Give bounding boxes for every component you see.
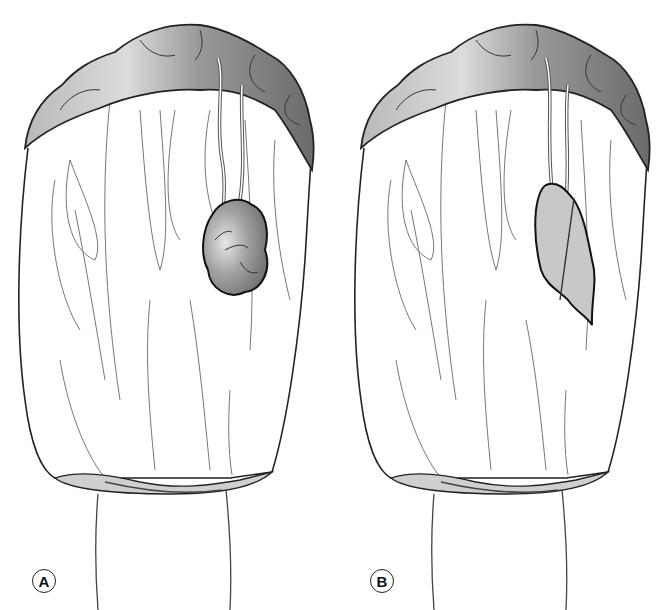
panel-label-a: A	[32, 569, 56, 593]
panel-label-b: B	[370, 569, 394, 593]
stem-right	[562, 490, 567, 610]
stem-left	[96, 494, 98, 610]
label-text: A	[39, 573, 50, 590]
stem-left	[432, 494, 434, 610]
panel-b: B	[336, 0, 671, 610]
stem-right	[226, 490, 231, 610]
panel-a: A	[0, 0, 335, 610]
label-text: B	[377, 573, 388, 590]
illustration-b	[336, 0, 671, 610]
illustration-a	[0, 0, 335, 610]
nodular-mass	[203, 200, 267, 295]
